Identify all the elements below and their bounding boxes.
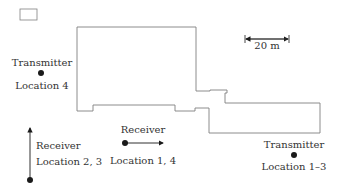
transmitter-4-location: Location 4 xyxy=(15,80,68,92)
receiver-2-3-location: Location 2, 3 xyxy=(36,156,102,168)
transmitter-location-4-dot xyxy=(38,70,44,76)
transmitter-4-title: Transmitter xyxy=(12,57,72,69)
building-outline xyxy=(77,27,320,133)
legend-box xyxy=(20,9,37,20)
scale-bar-label: 20 m xyxy=(254,40,279,52)
receiver-2-3-title: Receiver xyxy=(36,140,81,152)
receiver-1-4-location: Location 1, 4 xyxy=(110,155,176,167)
transmitter-location-1-3-dot xyxy=(291,152,297,158)
transmitter-1-3-title: Transmitter xyxy=(264,139,324,151)
transmitter-1-3-location: Location 1–3 xyxy=(262,161,327,173)
receiver-1-4-title: Receiver xyxy=(121,124,166,136)
